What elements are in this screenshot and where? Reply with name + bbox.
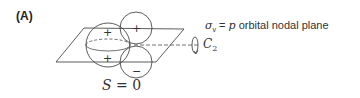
c2-label: C2 — [203, 37, 217, 53]
nodal-plane-annotation: σv = p orbital nodal plane — [205, 19, 329, 33]
symmetry-caption: S = 0 — [102, 77, 141, 93]
sign-big-upper: + — [103, 26, 112, 39]
rotation-arrow-icon — [192, 37, 198, 54]
sign-big-lower: + — [103, 52, 112, 65]
sign-small-upper: + — [132, 22, 141, 35]
orbital-diagram: + + + − — [0, 0, 360, 98]
